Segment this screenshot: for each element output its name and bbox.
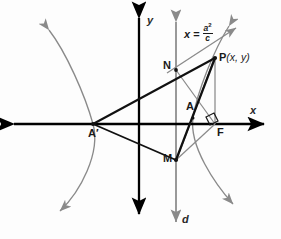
equation-relation: = bbox=[193, 28, 199, 40]
point-label-A: A bbox=[186, 101, 194, 112]
directrix-label: d bbox=[182, 214, 189, 225]
point-label-P: P(x, y) bbox=[219, 52, 250, 63]
dot-M bbox=[174, 158, 178, 162]
directrix-equation: x = a2 c bbox=[184, 24, 213, 43]
dot-P bbox=[213, 56, 217, 60]
equation-denominator: c bbox=[204, 34, 211, 43]
point-label-N: N bbox=[163, 60, 171, 71]
point-label-A-prime: A′ bbox=[88, 128, 99, 139]
y-axis-label: y bbox=[147, 15, 153, 26]
point-markers bbox=[91, 56, 217, 162]
geometry-diagram bbox=[0, 0, 281, 239]
dot-A bbox=[192, 117, 195, 120]
segment-M-to-P bbox=[176, 58, 215, 160]
point-label-F: F bbox=[217, 127, 224, 138]
point-label-M: M bbox=[163, 153, 172, 164]
figure-canvas: y x d x = a2 c A′ N P(x, y) A F M bbox=[0, 0, 281, 239]
point-label-P-coords: (x, y) bbox=[226, 51, 249, 63]
dot-A-prime bbox=[91, 122, 95, 126]
equation-fraction: a2 c bbox=[203, 24, 213, 43]
dot-N bbox=[174, 68, 178, 72]
segment-A-prime-to-P bbox=[93, 58, 215, 124]
equation-lhs: x bbox=[184, 28, 190, 40]
x-axis-label: x bbox=[250, 105, 256, 116]
hyperbola-left-branch bbox=[49, 30, 95, 211]
equation-numerator: a2 bbox=[203, 24, 213, 33]
equation-numerator-exponent: 2 bbox=[208, 22, 211, 28]
